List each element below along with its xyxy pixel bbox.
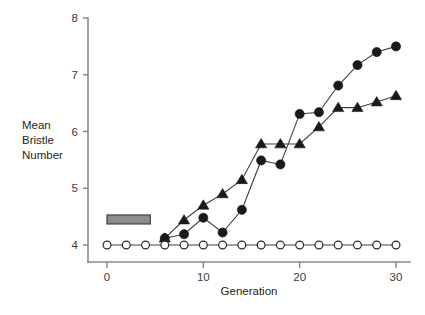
- y-tick-label: 6: [72, 126, 78, 138]
- y-axis-title-line-3: Number: [22, 149, 63, 161]
- y-tick-label: 7: [72, 69, 78, 81]
- filled-circle-marker: [314, 108, 323, 117]
- x-tick-label: 20: [293, 271, 306, 283]
- open-circle-marker: [315, 241, 323, 249]
- open-circle-marker: [219, 241, 227, 249]
- filled-triangle-marker: [256, 139, 267, 148]
- open-circle-marker: [296, 241, 304, 249]
- y-axis-title-line-2: Bristle: [22, 134, 54, 146]
- open-circle-marker: [180, 241, 188, 249]
- open-circle-marker: [373, 241, 381, 249]
- filled-circle-marker: [353, 61, 362, 70]
- open-circle-marker: [277, 241, 285, 249]
- y-axis-ticks: 45678: [72, 12, 88, 251]
- open-circle-marker: [142, 241, 150, 249]
- filled-circle-marker: [391, 42, 400, 51]
- y-tick-label: 8: [72, 12, 78, 24]
- filled-circle-marker: [257, 156, 266, 165]
- x-axis-title: Generation: [221, 285, 278, 297]
- filled-circle-marker: [334, 81, 343, 90]
- open-circle-marker: [238, 241, 246, 249]
- y-axis-title-line-1: Mean: [22, 119, 51, 131]
- filled-circle-marker: [199, 213, 208, 222]
- bristle-number-line-chart: 45678 0102030 Mean Bristle Number Genera…: [0, 0, 425, 315]
- x-tick-label: 0: [104, 271, 110, 283]
- filled-circle-marker: [237, 205, 246, 214]
- filled-circle-marker: [372, 47, 381, 56]
- open-circle-marker: [122, 241, 130, 249]
- chart-container: 45678 0102030 Mean Bristle Number Genera…: [0, 0, 425, 315]
- filled-triangle-marker: [236, 174, 247, 183]
- open-circle-marker: [257, 241, 265, 249]
- selection-bar-annotation: [107, 215, 150, 224]
- filled-triangle-marker: [275, 139, 286, 148]
- open-circle-marker: [161, 241, 169, 249]
- open-circle-marker: [354, 241, 362, 249]
- filled-circle-marker: [276, 160, 285, 169]
- y-tick-label: 4: [72, 239, 79, 251]
- open-circle-marker: [199, 241, 207, 249]
- filled-triangle-marker: [198, 200, 209, 209]
- filled-triangle-marker: [217, 189, 228, 198]
- filled-triangle-marker: [390, 90, 401, 99]
- annotations-group: [107, 215, 150, 224]
- x-tick-label: 30: [390, 271, 403, 283]
- y-tick-label: 5: [72, 182, 78, 194]
- filled-circle-marker: [179, 230, 188, 239]
- y-axis-title: Mean Bristle Number: [22, 119, 63, 161]
- filled-circle-marker: [295, 109, 304, 118]
- filled-circle-marker: [218, 228, 227, 237]
- filled-triangle-marker: [178, 215, 189, 224]
- open-circle-marker: [392, 241, 400, 249]
- open-circle-marker: [103, 241, 111, 249]
- x-tick-label: 10: [197, 271, 210, 283]
- x-axis-ticks: 0102030: [104, 262, 403, 283]
- axes-group: [88, 18, 410, 262]
- filled-triangle-marker: [333, 102, 344, 111]
- open-circle-marker: [334, 241, 342, 249]
